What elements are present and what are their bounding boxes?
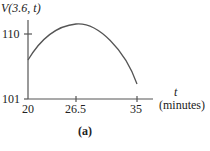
x-tick-label-20: 20 — [22, 102, 34, 117]
x-tick-label-26-5: 26.5 — [65, 102, 86, 117]
x-axis-label-units: (minutes) — [159, 98, 205, 113]
y-tick-label-110: 110 — [2, 27, 20, 42]
x-tick-label-35: 35 — [130, 102, 142, 117]
curve-v-3-6-t — [28, 24, 137, 84]
figure-caption: (a) — [78, 124, 92, 139]
plot-area — [0, 0, 210, 151]
y-tick-label-101: 101 — [2, 92, 20, 107]
